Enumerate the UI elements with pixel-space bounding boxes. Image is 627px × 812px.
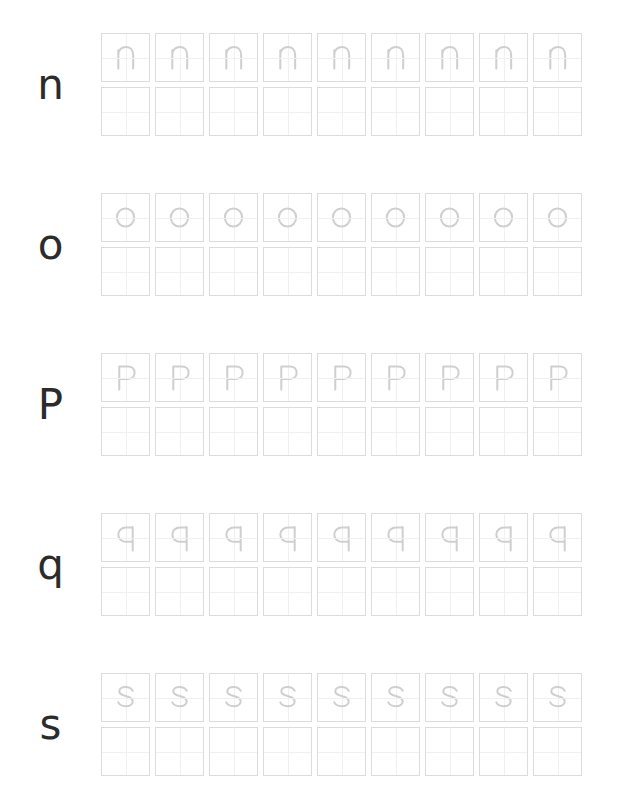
trace-cell[interactable] [371, 513, 420, 562]
trace-cell[interactable] [155, 193, 204, 242]
blank-practice-cell[interactable] [155, 87, 204, 136]
practice-rows-n [101, 33, 627, 136]
trace-cell[interactable] [263, 353, 312, 402]
blank-practice-cell[interactable] [209, 727, 258, 776]
blank-practice-cell[interactable] [263, 407, 312, 456]
trace-letter-q-icon [318, 514, 365, 561]
trace-cell[interactable] [479, 353, 528, 402]
trace-cell[interactable] [155, 513, 204, 562]
trace-cell[interactable] [209, 673, 258, 722]
blank-practice-cell[interactable] [425, 87, 474, 136]
trace-letter-n-icon [534, 34, 581, 81]
trace-cell[interactable] [425, 513, 474, 562]
trace-cell[interactable] [317, 513, 366, 562]
blank-practice-cell[interactable] [155, 407, 204, 456]
blank-practice-cell[interactable] [533, 727, 582, 776]
blank-practice-cell[interactable] [317, 407, 366, 456]
trace-letter-P-icon [156, 354, 203, 401]
blank-practice-cell[interactable] [533, 247, 582, 296]
trace-cell[interactable] [371, 353, 420, 402]
trace-cell[interactable] [263, 673, 312, 722]
blank-practice-cell[interactable] [209, 567, 258, 616]
blank-practice-cell[interactable] [479, 407, 528, 456]
trace-cell[interactable] [533, 513, 582, 562]
blank-practice-cell[interactable] [371, 87, 420, 136]
blank-practice-cell[interactable] [479, 247, 528, 296]
trace-cell[interactable] [101, 353, 150, 402]
trace-cell[interactable] [533, 353, 582, 402]
blank-practice-cell[interactable] [209, 247, 258, 296]
blank-practice-cell[interactable] [101, 87, 150, 136]
blank-practice-cell[interactable] [317, 567, 366, 616]
trace-cell[interactable] [479, 33, 528, 82]
blank-practice-cell[interactable] [479, 727, 528, 776]
trace-cell[interactable] [425, 673, 474, 722]
blank-practice-cell[interactable] [101, 727, 150, 776]
blank-practice-cell[interactable] [263, 727, 312, 776]
blank-practice-cell[interactable] [317, 87, 366, 136]
blank-row-o [101, 247, 627, 296]
trace-cell[interactable] [263, 513, 312, 562]
trace-cell[interactable] [317, 33, 366, 82]
trace-cell[interactable] [101, 513, 150, 562]
blank-practice-cell[interactable] [479, 87, 528, 136]
blank-practice-cell[interactable] [479, 567, 528, 616]
trace-cell[interactable] [101, 673, 150, 722]
trace-cell[interactable] [371, 673, 420, 722]
blank-practice-cell[interactable] [425, 567, 474, 616]
blank-practice-cell[interactable] [425, 727, 474, 776]
blank-practice-cell[interactable] [371, 407, 420, 456]
trace-cell[interactable] [371, 33, 420, 82]
blank-practice-cell[interactable] [371, 567, 420, 616]
trace-cell[interactable] [479, 673, 528, 722]
handwriting-worksheet: noPqs [0, 0, 627, 812]
blank-practice-cell[interactable] [155, 727, 204, 776]
blank-practice-cell[interactable] [533, 407, 582, 456]
trace-cell[interactable] [209, 33, 258, 82]
blank-practice-cell[interactable] [263, 87, 312, 136]
trace-cell[interactable] [317, 673, 366, 722]
trace-cell[interactable] [371, 193, 420, 242]
trace-letter-o-icon [102, 194, 149, 241]
trace-cell[interactable] [425, 33, 474, 82]
trace-cell[interactable] [263, 193, 312, 242]
blank-practice-cell[interactable] [371, 247, 420, 296]
blank-practice-cell[interactable] [371, 727, 420, 776]
trace-cell[interactable] [317, 193, 366, 242]
trace-cell[interactable] [425, 353, 474, 402]
letter-block-o: o [0, 193, 627, 296]
blank-practice-cell[interactable] [263, 247, 312, 296]
trace-letter-s-icon [210, 674, 257, 721]
trace-cell[interactable] [209, 513, 258, 562]
blank-practice-cell[interactable] [533, 567, 582, 616]
blank-practice-cell[interactable] [533, 87, 582, 136]
blank-practice-cell[interactable] [425, 247, 474, 296]
trace-cell[interactable] [209, 193, 258, 242]
trace-cell[interactable] [533, 673, 582, 722]
trace-cell[interactable] [479, 513, 528, 562]
trace-cell[interactable] [263, 33, 312, 82]
trace-cell[interactable] [155, 673, 204, 722]
trace-cell[interactable] [317, 353, 366, 402]
trace-cell[interactable] [533, 193, 582, 242]
blank-practice-cell[interactable] [101, 567, 150, 616]
trace-cell[interactable] [479, 193, 528, 242]
blank-practice-cell[interactable] [155, 567, 204, 616]
blank-practice-cell[interactable] [209, 87, 258, 136]
trace-cell[interactable] [209, 353, 258, 402]
blank-practice-cell[interactable] [155, 247, 204, 296]
blank-practice-cell[interactable] [263, 567, 312, 616]
trace-cell[interactable] [155, 33, 204, 82]
trace-cell[interactable] [155, 353, 204, 402]
blank-practice-cell[interactable] [101, 247, 150, 296]
trace-cell[interactable] [533, 33, 582, 82]
trace-cell[interactable] [101, 193, 150, 242]
trace-cell[interactable] [425, 193, 474, 242]
blank-practice-cell[interactable] [209, 407, 258, 456]
blank-practice-cell[interactable] [317, 247, 366, 296]
practice-rows-s [101, 673, 627, 776]
trace-cell[interactable] [101, 33, 150, 82]
blank-practice-cell[interactable] [317, 727, 366, 776]
blank-practice-cell[interactable] [101, 407, 150, 456]
blank-practice-cell[interactable] [425, 407, 474, 456]
